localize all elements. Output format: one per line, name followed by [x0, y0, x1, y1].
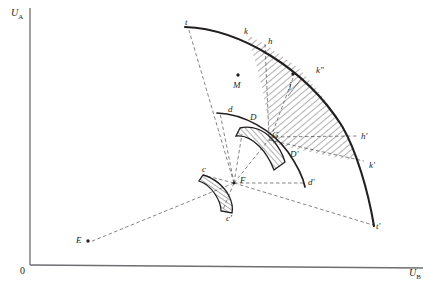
label-D-prime: D'	[290, 150, 298, 159]
point-E	[86, 239, 89, 242]
label-d: d	[228, 105, 233, 114]
label-k: k	[244, 27, 248, 36]
label-E: E	[76, 236, 82, 245]
label-G: G	[272, 131, 279, 140]
point-markers	[86, 72, 294, 242]
x-axis	[30, 265, 423, 268]
label-t-prime: t'	[376, 222, 380, 231]
ray-F-to-tprime	[234, 183, 373, 225]
label-t: t	[185, 18, 188, 27]
label-D: D	[250, 113, 257, 122]
band-small-shape	[199, 175, 232, 213]
band-small-hatched	[199, 175, 232, 213]
label-c: c	[202, 165, 206, 174]
label-c-prime: c'	[226, 214, 232, 223]
point-j	[291, 72, 294, 75]
label-M: M	[233, 81, 241, 90]
origin-label: 0	[20, 266, 25, 276]
diagram-canvas	[0, 0, 429, 290]
x-axis-label-sub: B	[416, 273, 421, 281]
label-F: F	[240, 176, 246, 185]
band-large-hatched	[230, 20, 390, 180]
ray-F-to-d	[220, 113, 234, 183]
label-d-prime: d'	[308, 178, 314, 187]
utility-possibility-diagram: UA UB 0 t k h k" M j d D G D' h' k' d' t…	[0, 0, 429, 290]
label-j: j	[289, 81, 292, 90]
point-F	[233, 182, 236, 185]
y-axis-label-sub: A	[18, 13, 23, 21]
label-k-double-prime: k"	[316, 66, 324, 75]
y-axis-label: UA	[11, 8, 23, 21]
ray-F-to-E	[90, 183, 234, 242]
x-axis-label: UB	[409, 268, 421, 281]
point-M	[236, 73, 239, 76]
label-h-prime: h'	[361, 132, 367, 141]
label-k-prime: k'	[369, 161, 375, 170]
label-h: h	[268, 37, 273, 46]
